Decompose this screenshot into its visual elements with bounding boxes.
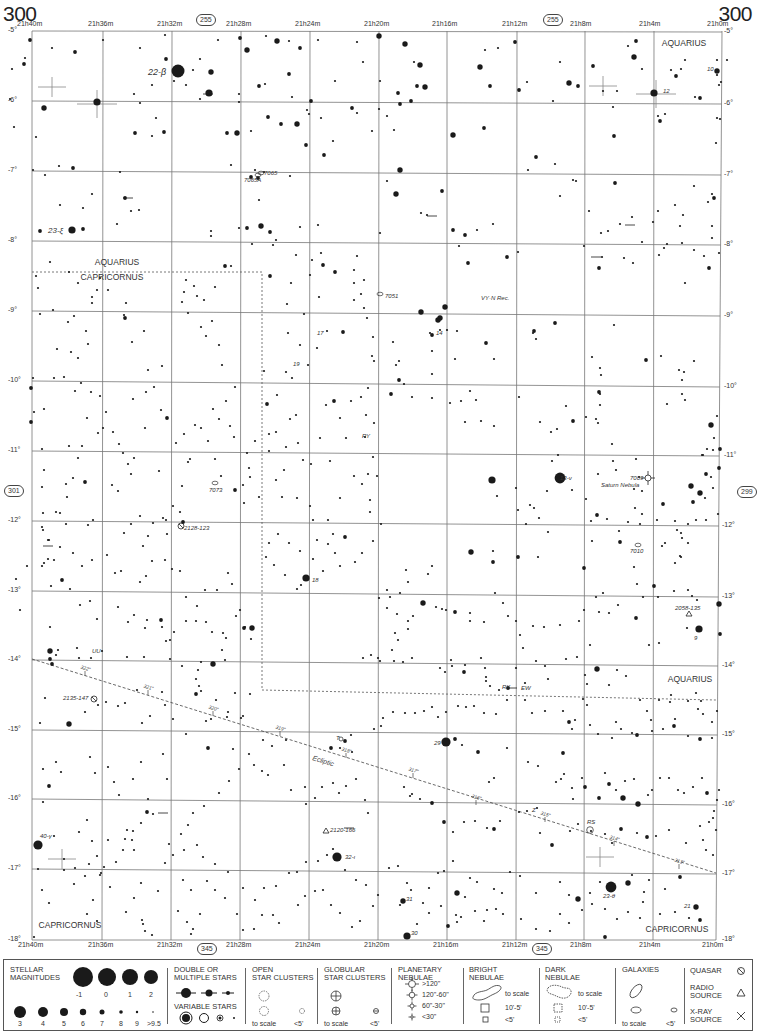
star — [102, 427, 104, 429]
star — [84, 711, 86, 713]
star — [627, 45, 629, 47]
star — [299, 344, 301, 346]
star — [460, 400, 462, 402]
object-label: VY·N Rec. — [481, 295, 509, 301]
star — [718, 84, 720, 86]
star — [659, 913, 661, 915]
star — [200, 427, 202, 429]
star — [615, 789, 617, 791]
star — [698, 918, 702, 922]
star — [604, 833, 606, 835]
star — [42, 529, 44, 531]
star — [146, 619, 148, 621]
magnitude-dots — [10, 960, 165, 1030]
star — [506, 699, 508, 701]
star — [48, 902, 50, 904]
star — [591, 540, 593, 542]
star — [619, 223, 621, 225]
star — [52, 309, 54, 311]
star — [708, 821, 710, 823]
star — [230, 265, 232, 267]
star — [719, 118, 721, 120]
star — [332, 399, 336, 403]
star — [69, 588, 71, 590]
star — [200, 326, 202, 328]
star — [716, 799, 718, 801]
star — [322, 889, 324, 891]
star — [284, 574, 286, 576]
star — [627, 521, 629, 523]
star — [377, 657, 379, 659]
constellation-label: CAPRICORNUS — [81, 272, 144, 282]
star — [147, 369, 149, 371]
star — [712, 854, 714, 856]
star — [327, 543, 329, 545]
star — [718, 632, 722, 636]
star — [393, 660, 395, 662]
star — [691, 500, 695, 504]
star — [77, 282, 79, 284]
star — [196, 295, 198, 297]
star — [298, 46, 302, 50]
star — [341, 330, 345, 334]
planetary-nebula-7009 — [645, 475, 651, 481]
star — [553, 321, 557, 325]
legend-open-clusters: OPENSTAR CLUSTERS to scale <5' — [252, 960, 317, 1030]
star — [492, 827, 496, 831]
star — [275, 239, 277, 241]
star — [669, 701, 671, 703]
star — [212, 408, 214, 410]
star — [482, 126, 486, 130]
star — [297, 904, 299, 906]
star — [464, 896, 466, 898]
star — [63, 858, 65, 860]
star — [286, 303, 288, 305]
star — [53, 377, 55, 379]
star — [360, 293, 362, 295]
star — [453, 610, 457, 614]
star — [463, 821, 465, 823]
star — [288, 40, 290, 42]
star — [561, 751, 565, 755]
star — [235, 615, 237, 617]
star — [590, 520, 592, 522]
star — [73, 315, 75, 317]
star — [464, 421, 466, 423]
object-label: EW — [521, 685, 532, 691]
star — [76, 647, 78, 649]
star — [693, 185, 695, 187]
star — [373, 422, 375, 424]
star — [695, 692, 697, 694]
star — [261, 914, 263, 916]
star — [295, 254, 297, 256]
star — [268, 433, 270, 435]
star — [172, 505, 174, 507]
star — [162, 753, 164, 755]
star — [187, 824, 189, 826]
object-label: 9 — [694, 635, 698, 641]
star — [616, 669, 618, 671]
star — [616, 90, 618, 92]
star — [407, 581, 409, 583]
object-label: UU — [92, 648, 101, 654]
star — [422, 902, 424, 904]
star-chart[interactable]: 322°321°320°319°318°317°316°315°314°313°… — [0, 0, 758, 955]
star — [205, 720, 207, 722]
star — [227, 572, 229, 574]
star — [153, 386, 155, 388]
star — [147, 535, 149, 537]
legend-divider — [684, 968, 685, 1024]
star — [350, 734, 352, 736]
star — [130, 523, 132, 525]
svg-text:315°: 315° — [540, 810, 552, 819]
star — [103, 866, 105, 868]
star — [72, 477, 74, 479]
star — [670, 694, 672, 696]
star — [700, 700, 702, 702]
star — [648, 644, 650, 646]
star — [220, 475, 222, 477]
star — [711, 721, 713, 723]
star — [486, 909, 488, 911]
star — [319, 437, 321, 439]
star — [112, 431, 114, 433]
